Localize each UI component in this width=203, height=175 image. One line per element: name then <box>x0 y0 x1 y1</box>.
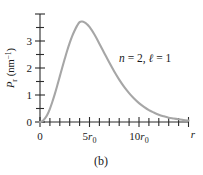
x-tick-label-5r0: 5r0 <box>83 130 97 145</box>
y-tick-label-1: 1 <box>27 89 33 101</box>
annotation-n-value: = 2, <box>128 52 146 65</box>
annotation-l-value: = 1 <box>156 52 171 64</box>
figure-caption: (b) <box>94 154 108 168</box>
y-axis-unit-open: (nm <box>5 59 17 79</box>
y-tick-label-2: 2 <box>27 62 33 74</box>
svg-text:Pr (nm−1): Pr (nm−1) <box>4 47 19 89</box>
radial-probability-chart: 0 1 2 3 0 5r0 10r0 r Pr (nm−1) n = 2, ℓ … <box>0 0 203 175</box>
y-axis-unit-close: ) <box>5 47 17 51</box>
probability-density-curve <box>40 22 189 122</box>
y-axis-unit-exp: −1 <box>4 51 13 59</box>
figure-panel-b: 0 1 2 3 0 5r0 10r0 r Pr (nm−1) n = 2, ℓ … <box>0 0 203 175</box>
y-axis-title: Pr (nm−1) <box>4 47 19 89</box>
x-tick-label-0: 0 <box>37 130 43 142</box>
y-tick-label-0: 0 <box>27 116 33 128</box>
y-tick-label-3: 3 <box>27 35 33 47</box>
x-tick-labels: 0 5r0 10r0 <box>37 130 148 145</box>
x-axis-title: r <box>191 128 196 140</box>
quantum-numbers-annotation: n = 2, ℓ = 1 <box>119 52 172 65</box>
x-tick-label-10r0: 10r0 <box>129 130 148 145</box>
y-tick-labels: 0 1 2 3 <box>27 35 33 128</box>
